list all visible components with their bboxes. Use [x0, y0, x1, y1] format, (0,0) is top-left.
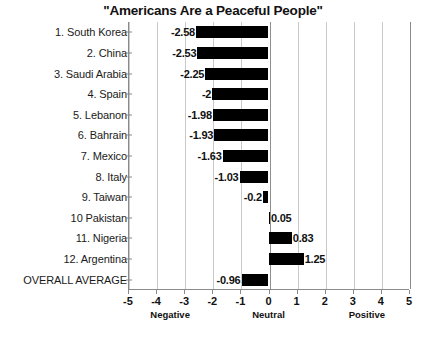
bar-value-label: -1.98 — [188, 109, 212, 121]
category-tick-mark — [126, 52, 132, 53]
bar — [269, 232, 292, 244]
bar-value-label: -1.63 — [198, 150, 222, 162]
x-tick-label: 1 — [294, 295, 300, 307]
bar-value-label: 1.25 — [305, 253, 326, 265]
x-tick-label: 2 — [322, 295, 328, 307]
category-tick-mark — [126, 217, 132, 218]
bar — [214, 129, 268, 141]
chart-row: 10 Pakistan0.05 — [0, 208, 426, 229]
category-tick-mark — [126, 155, 132, 156]
bar-value-label: -2 — [202, 88, 211, 100]
bar — [196, 26, 268, 38]
category-tick-mark — [126, 73, 132, 74]
x-tick-label: -1 — [236, 295, 246, 307]
bar-rows: 1. South Korea-2.582. China-2.533. Saudi… — [0, 22, 426, 290]
bar-value-label: -0.96 — [216, 274, 240, 286]
x-tick-mark — [240, 290, 241, 294]
bar — [205, 68, 268, 80]
x-tick-label: 0 — [265, 295, 271, 307]
category-tick-mark — [126, 197, 132, 198]
chart-row: 7. Mexico-1.63 — [0, 146, 426, 167]
chart-row: 11. Nigeria0.83 — [0, 228, 426, 249]
bar-value-label: -2.58 — [171, 26, 195, 38]
bar — [242, 274, 269, 286]
x-tick-mark — [353, 290, 354, 294]
category-label: 4. Spain — [87, 88, 127, 100]
category-tick-mark — [126, 238, 132, 239]
bar-value-label: -1.03 — [214, 171, 238, 183]
category-label: 12. Argentina — [63, 253, 127, 265]
chart-row: 8. Italy-1.03 — [0, 166, 426, 187]
category-label: 7. Mexico — [81, 150, 127, 162]
x-tick-label: -4 — [151, 295, 161, 307]
x-tick-mark — [269, 290, 270, 294]
bar — [269, 212, 271, 224]
zone-label-neutral: Neutral — [252, 309, 285, 320]
category-tick-mark — [126, 176, 132, 177]
category-tick-mark — [126, 135, 132, 136]
x-tick-label: 4 — [378, 295, 384, 307]
x-tick-mark — [297, 290, 298, 294]
category-label: OVERALL AVERAGE — [23, 274, 127, 286]
category-tick-mark — [126, 32, 132, 33]
category-label: 9. Taiwan — [82, 191, 127, 203]
chart-row: 9. Taiwan-0.2 — [0, 187, 426, 208]
bar-value-label: -0.2 — [244, 191, 262, 203]
category-tick-mark — [126, 259, 132, 260]
x-tick-mark — [212, 290, 213, 294]
zone-label-negative: Negative — [150, 309, 190, 320]
x-tick-label: -5 — [123, 295, 133, 307]
bar — [212, 88, 268, 100]
x-tick-label: 3 — [350, 295, 356, 307]
category-label: 10 Pakistan — [71, 212, 127, 224]
x-tick-mark — [409, 290, 410, 294]
x-axis: -5-4-3-2-1012345NegativeNeutralPositive — [0, 290, 426, 337]
bar-value-label: -2.25 — [180, 68, 204, 80]
bar — [240, 171, 269, 183]
bar-chart: "Americans Are a Peaceful People" 1. Sou… — [0, 0, 426, 337]
x-tick-label: -2 — [207, 295, 217, 307]
chart-row: 4. Spain-2 — [0, 84, 426, 105]
category-label: 6. Bahrain — [78, 129, 127, 141]
category-tick-mark — [126, 94, 132, 95]
chart-row: 5. Lebanon-1.98 — [0, 104, 426, 125]
chart-row: 2. China-2.53 — [0, 43, 426, 64]
category-label: 1. South Korea — [55, 26, 127, 38]
x-tick-mark — [381, 290, 382, 294]
category-label: 11. Nigeria — [76, 232, 127, 244]
chart-row: 12. Argentina1.25 — [0, 249, 426, 270]
bar-value-label: -2.53 — [172, 47, 196, 59]
x-tick-mark — [128, 290, 129, 294]
category-label: 3. Saudi Arabia — [54, 68, 127, 80]
x-tick-mark — [184, 290, 185, 294]
category-tick-mark — [126, 279, 132, 280]
x-tick-mark — [325, 290, 326, 294]
chart-row: 1. South Korea-2.58 — [0, 22, 426, 43]
bar — [197, 47, 268, 59]
category-label: 8. Italy — [95, 171, 127, 183]
chart-title: "Americans Are a Peaceful People" — [0, 3, 426, 18]
bar — [263, 191, 269, 203]
x-tick-mark — [156, 290, 157, 294]
bar-value-label: 0.05 — [271, 212, 292, 224]
x-tick-label: -3 — [179, 295, 189, 307]
x-tick-label: 5 — [406, 295, 412, 307]
chart-row: OVERALL AVERAGE-0.96 — [0, 269, 426, 290]
bar — [213, 109, 269, 121]
bar — [269, 253, 304, 265]
category-tick-mark — [126, 114, 132, 115]
bar-value-label: 0.83 — [293, 232, 314, 244]
zone-label-positive: Positive — [349, 309, 385, 320]
chart-row: 3. Saudi Arabia-2.25 — [0, 63, 426, 84]
bar — [223, 150, 269, 162]
category-label: 5. Lebanon — [73, 109, 127, 121]
category-label: 2. China — [87, 47, 127, 59]
bar-value-label: -1.93 — [189, 129, 213, 141]
chart-row: 6. Bahrain-1.93 — [0, 125, 426, 146]
